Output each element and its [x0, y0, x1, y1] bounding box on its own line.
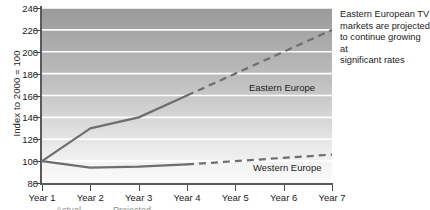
x-axis-tick-label: Year 4	[173, 192, 200, 203]
y-axis-tick-mark	[34, 8, 41, 9]
series-label-western-europe: Western Europe	[253, 162, 321, 173]
y-axis-tick-mark	[34, 161, 41, 162]
x-axis-tick-label: Year 7	[318, 192, 345, 203]
x-axis-tick-mark	[139, 185, 140, 191]
series-label-eastern-europe: Eastern Europe	[249, 82, 315, 93]
series-line-actual	[42, 161, 187, 168]
x-axis-tick-mark	[235, 185, 236, 191]
y-axis-tick-mark	[34, 139, 41, 140]
y-axis-tick-mark	[34, 74, 41, 75]
plot-area-frame	[42, 8, 332, 183]
x-axis-tick-label: Year 6	[270, 192, 297, 203]
clipped-footer-caption: Actual ——— Projected – – –	[56, 205, 356, 210]
x-axis-tick-mark	[332, 185, 333, 191]
y-axis-tick-mark	[34, 30, 41, 31]
annotation-callout: Eastern European TV markets are projecte…	[340, 9, 430, 67]
y-axis-tick-mark	[34, 117, 41, 118]
x-axis-tick-mark	[187, 185, 188, 191]
y-axis-tick-mark	[34, 96, 41, 97]
x-axis-tick-mark	[42, 185, 43, 191]
series-line-actual	[42, 96, 187, 162]
annotation-line-4: significant rates	[340, 55, 430, 67]
y-axis-tick-mark	[34, 52, 41, 53]
annotation-line-2: markets are projected	[340, 21, 430, 33]
x-axis-tick-label: Year 5	[222, 192, 249, 203]
x-axis-tick-label: Year 1	[28, 192, 55, 203]
annotation-line-3: to continue growing at	[340, 32, 430, 55]
x-axis-tick-label: Year 2	[77, 192, 104, 203]
annotation-line-1: Eastern European TV	[340, 9, 430, 21]
x-axis-tick-mark	[90, 185, 91, 191]
x-axis-tick-label: Year 3	[125, 192, 152, 203]
plot-svg	[42, 8, 332, 183]
chart-figure: Index to 2000 = 100 80100120140160180200…	[0, 0, 430, 210]
x-axis-tick-mark	[284, 185, 285, 191]
y-axis-tick-mark	[34, 183, 41, 184]
